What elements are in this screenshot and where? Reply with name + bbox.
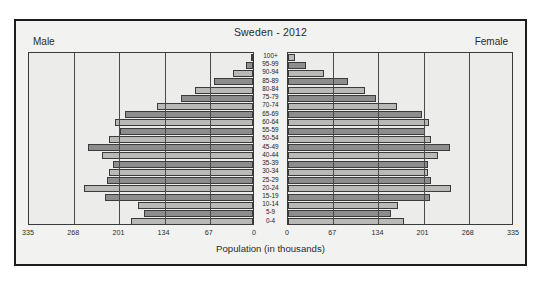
- bar-row: [29, 201, 253, 209]
- age-group-label: 45-49: [254, 143, 287, 151]
- male-plot-panel: [28, 52, 254, 225]
- bar: [115, 119, 253, 126]
- bar: [120, 128, 253, 135]
- bar: [288, 136, 431, 143]
- age-group-label: 85-89: [254, 77, 287, 85]
- bar-row: [29, 218, 253, 225]
- age-group-label: 75-79: [254, 93, 287, 101]
- bar: [138, 202, 253, 209]
- bar-row: [288, 218, 512, 225]
- bar: [195, 87, 253, 94]
- bar-row: [288, 61, 512, 69]
- gridline: [74, 53, 75, 224]
- bar: [288, 152, 438, 159]
- bar: [251, 54, 253, 61]
- bar: [125, 111, 253, 118]
- bar: [131, 218, 253, 225]
- bar: [288, 78, 348, 85]
- bar-row: [29, 53, 253, 61]
- age-group-label: 35-39: [254, 159, 287, 167]
- bar: [288, 128, 425, 135]
- bar-row: [288, 168, 512, 176]
- bar-row: [288, 209, 512, 217]
- axis-tick-label: 0: [285, 228, 289, 237]
- bar: [288, 161, 428, 168]
- bar-row: [29, 119, 253, 127]
- bar: [109, 136, 253, 143]
- gridline: [424, 53, 425, 224]
- age-group-label: 5-9: [254, 208, 287, 216]
- bar-row: [29, 135, 253, 143]
- bar: [288, 185, 451, 192]
- gridline: [378, 53, 379, 224]
- bar-row: [288, 94, 512, 102]
- axis-title: Population (in thousands): [0, 243, 541, 254]
- bar-row: [29, 193, 253, 201]
- age-group-label: 100+: [254, 52, 287, 60]
- gridline: [210, 53, 211, 224]
- bar-row: [29, 152, 253, 160]
- age-group-label: 25-29: [254, 176, 287, 184]
- axis-tick-label: 67: [328, 228, 336, 237]
- male-axis-label: Male: [33, 36, 55, 47]
- bar: [288, 210, 391, 217]
- bar: [288, 169, 428, 176]
- bar-row: [288, 144, 512, 152]
- gridline: [469, 53, 470, 224]
- axis-tick-label: 134: [371, 228, 383, 237]
- bar: [288, 144, 450, 151]
- bar-row: [288, 78, 512, 86]
- axis-tick-label: 335: [507, 228, 519, 237]
- bar: [288, 87, 365, 94]
- bar-row: [288, 102, 512, 110]
- bar: [288, 177, 431, 184]
- bar: [288, 70, 324, 77]
- bar-row: [29, 61, 253, 69]
- axis-tick-label: 335: [22, 228, 34, 237]
- bar-row: [29, 177, 253, 185]
- age-group-label: 15-19: [254, 192, 287, 200]
- bar: [288, 103, 397, 110]
- bar-row: [29, 160, 253, 168]
- bar: [288, 62, 306, 69]
- axis-tick-label: 67: [205, 228, 213, 237]
- bar-row: [288, 160, 512, 168]
- bar: [288, 194, 430, 201]
- bar-row: [288, 111, 512, 119]
- axis-tick-label: 0: [252, 228, 256, 237]
- gridline: [165, 53, 166, 224]
- age-group-label: 55-59: [254, 126, 287, 134]
- female-axis-ticks: 067134201268335: [287, 228, 513, 240]
- gridline: [333, 53, 334, 224]
- bar: [288, 54, 295, 61]
- axis-tick-label: 134: [158, 228, 170, 237]
- axis-tick-label: 201: [112, 228, 124, 237]
- age-group-labels: 100+95-9990-9485-8980-8475-7970-7465-696…: [254, 52, 287, 225]
- bar: [288, 202, 398, 209]
- axis-tick-label: 201: [417, 228, 429, 237]
- bar-row: [288, 201, 512, 209]
- age-group-label: 65-69: [254, 110, 287, 118]
- bar-row: [288, 135, 512, 143]
- bar-row: [288, 152, 512, 160]
- bar: [288, 95, 376, 102]
- bar-row: [288, 53, 512, 61]
- screenshot-root: Sweden - 2012 Male Female 100+95-9990-94…: [0, 0, 541, 285]
- bar-row: [29, 94, 253, 102]
- age-group-label: 80-84: [254, 85, 287, 93]
- age-group-label: 70-74: [254, 101, 287, 109]
- bar: [288, 119, 429, 126]
- bar-row: [288, 69, 512, 77]
- age-group-label: 95-99: [254, 60, 287, 68]
- bar-row: [29, 144, 253, 152]
- age-group-label: 60-64: [254, 118, 287, 126]
- axis-tick-label: 268: [67, 228, 79, 237]
- age-group-label: 0-4: [254, 217, 287, 225]
- bar: [181, 95, 253, 102]
- bar: [157, 103, 253, 110]
- axis-tick-label: 268: [462, 228, 474, 237]
- bar: [288, 218, 404, 225]
- bar-row: [288, 127, 512, 135]
- age-group-label: 10-14: [254, 200, 287, 208]
- bar-row: [29, 111, 253, 119]
